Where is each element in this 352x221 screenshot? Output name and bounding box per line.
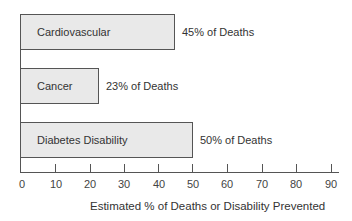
bar-category-label: Cardiovascular: [37, 26, 110, 38]
x-tick: [262, 164, 263, 172]
x-axis-line: [20, 172, 339, 173]
x-tick-label: 10: [50, 178, 62, 190]
x-tick-label: 70: [256, 178, 268, 190]
bar-value-label: 50% of Deaths: [200, 134, 272, 146]
x-tick: [331, 164, 332, 172]
bar-category-label: Cancer: [37, 80, 72, 92]
bar-diabetes-disability: Diabetes Disability: [20, 122, 193, 158]
bar-value-label: 45% of Deaths: [182, 26, 254, 38]
x-tick-label: 30: [118, 178, 130, 190]
x-tick-label: 0: [19, 178, 25, 190]
x-tick: [227, 164, 228, 172]
x-tick-label: 90: [325, 178, 337, 190]
x-tick: [55, 164, 56, 172]
x-tick: [296, 164, 297, 172]
x-tick: [158, 164, 159, 172]
x-tick-label: 80: [290, 178, 302, 190]
x-tick: [192, 164, 193, 172]
x-tick-label: 60: [221, 178, 233, 190]
x-tick-label: 50: [187, 178, 199, 190]
x-tick: [124, 164, 125, 172]
bar-cancer: Cancer: [20, 68, 99, 104]
x-tick-label: 40: [153, 178, 165, 190]
bar-category-label: Diabetes Disability: [37, 134, 127, 146]
bar-value-label: 23% of Deaths: [106, 80, 178, 92]
x-tick: [90, 164, 91, 172]
x-tick-label: 20: [84, 178, 96, 190]
x-axis-title: Estimated % of Deaths or Disability Prev…: [90, 200, 325, 212]
bar-cardiovascular: Cardiovascular: [20, 14, 175, 50]
